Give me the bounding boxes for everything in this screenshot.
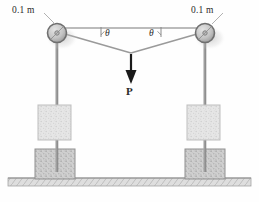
force-label-p: P <box>126 86 133 97</box>
left-pulley <box>48 24 67 43</box>
right-angle-arc <box>158 32 162 36</box>
right-pulley <box>196 24 215 43</box>
left-dimension-leader <box>44 13 55 24</box>
left-slider-block <box>38 105 71 140</box>
force-arrow-p <box>126 54 137 84</box>
right-slider-block <box>187 105 220 140</box>
right-angle-label: θ <box>149 29 154 39</box>
right-dimension-label: 0.1 m <box>191 6 214 16</box>
mechanics-diagram-figure: 0.1 m 0.1 m θ θ P <box>0 0 259 202</box>
left-angle-arc <box>101 32 105 36</box>
left-angle-label: θ <box>105 29 110 39</box>
left-base-block <box>35 149 75 179</box>
diagram-canvas <box>0 0 259 202</box>
left-dimension-label: 0.1 m <box>12 6 35 16</box>
cable-right-segment <box>131 32 204 53</box>
